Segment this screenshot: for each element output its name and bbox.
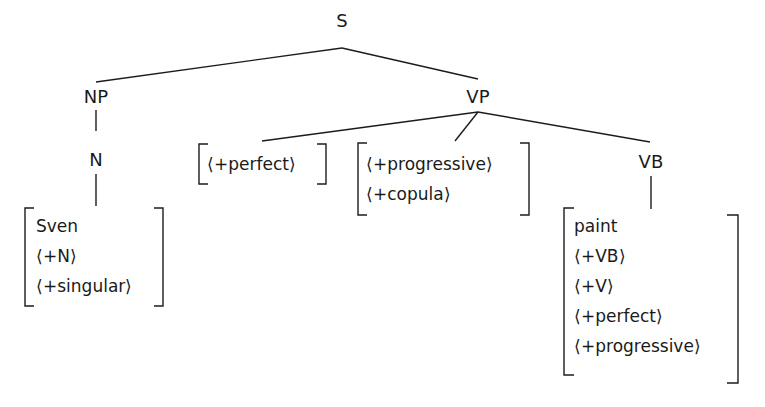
node-n: N (89, 150, 103, 170)
left-angle-glyph: ⟨ (36, 271, 43, 301)
bracket-right-verb (727, 215, 738, 383)
feature-text: +progressive (373, 154, 486, 174)
node-s: S (336, 11, 348, 31)
feature-row: ⟨+N⟩ (36, 241, 132, 271)
feature-matrix-perfect: ⟨+perfect⟩ (207, 149, 296, 179)
feature-row: ⟨+perfect⟩ (207, 149, 296, 179)
feature-matrix-noun: Sven ⟨+N⟩ ⟨+singular⟩ (36, 211, 132, 301)
edge-vp-progressive (455, 112, 478, 141)
feature-text: +N (43, 246, 70, 266)
right-angle-glyph: ⟩ (444, 179, 451, 209)
feature-row: ⟨+V⟩ (574, 271, 701, 301)
feature-text: +progressive (581, 336, 694, 356)
node-vb: VB (638, 152, 663, 172)
lexeme-paint: paint (574, 211, 701, 241)
left-angle-glyph: ⟨ (574, 331, 581, 361)
edge-s-np (96, 48, 342, 82)
left-angle-glyph: ⟨ (574, 241, 581, 271)
feature-text: +perfect (581, 306, 656, 326)
right-angle-glyph: ⟩ (486, 149, 493, 179)
right-angle-glyph: ⟩ (619, 241, 626, 271)
feature-text: +perfect (214, 154, 289, 174)
right-angle-glyph: ⟩ (70, 241, 77, 271)
edge-vp-perfect (262, 112, 478, 141)
feature-row: ⟨+singular⟩ (36, 271, 132, 301)
right-angle-glyph: ⟩ (125, 271, 132, 301)
lexeme-sven: Sven (36, 211, 132, 241)
bracket-left-verb (564, 208, 574, 375)
bracket-right-noun (154, 208, 163, 306)
feature-row: ⟨+progressive⟩ (574, 331, 701, 361)
feature-text: +V (581, 276, 607, 296)
feature-row: ⟨+perfect⟩ (574, 301, 701, 331)
left-angle-glyph: ⟨ (366, 149, 373, 179)
edge-s-vp (342, 48, 478, 79)
feature-row: ⟨+copula⟩ (366, 179, 493, 209)
right-angle-glyph: ⟩ (656, 301, 663, 331)
node-np: NP (84, 87, 109, 107)
left-angle-glyph: ⟨ (574, 301, 581, 331)
left-angle-glyph: ⟨ (366, 179, 373, 209)
left-angle-glyph: ⟨ (207, 149, 214, 179)
bracket-right-progressive (520, 143, 529, 215)
feature-matrix-progressive: ⟨+progressive⟩ ⟨+copula⟩ (366, 149, 493, 209)
left-angle-glyph: ⟨ (36, 241, 43, 271)
node-vp: VP (466, 87, 490, 107)
feature-row: ⟨+progressive⟩ (366, 149, 493, 179)
bracket-right-perfect (317, 144, 326, 184)
right-angle-glyph: ⟩ (289, 149, 296, 179)
feature-text: +singular (43, 276, 125, 296)
edge-vp-vb (478, 112, 650, 142)
left-angle-glyph: ⟨ (574, 271, 581, 301)
feature-text: +copula (373, 184, 444, 204)
right-angle-glyph: ⟩ (607, 271, 614, 301)
bracket-left-noun (25, 208, 34, 306)
right-angle-glyph: ⟩ (694, 331, 701, 361)
feature-matrix-verb: paint ⟨+VB⟩ ⟨+V⟩ ⟨+perfect⟩ ⟨+progressiv… (574, 211, 701, 361)
feature-text: +VB (581, 246, 619, 266)
feature-row: ⟨+VB⟩ (574, 241, 701, 271)
